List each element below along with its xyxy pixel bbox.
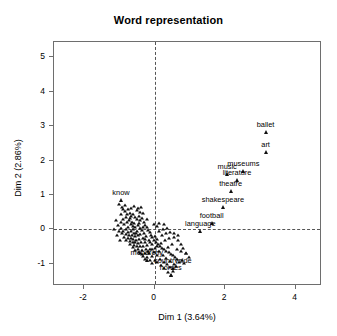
scatter-point bbox=[159, 242, 163, 245]
scatter-point bbox=[175, 247, 179, 250]
scatter-point bbox=[176, 238, 180, 241]
scatter-point-labeled bbox=[229, 189, 233, 193]
scatter-point-labeled bbox=[198, 229, 202, 233]
point-label: art bbox=[261, 141, 270, 148]
y-tick-label: 4 bbox=[29, 86, 45, 96]
x-tick-label: 4 bbox=[285, 292, 305, 302]
x-tick-label: -2 bbox=[73, 292, 93, 302]
scatter-point-labeled bbox=[221, 205, 225, 209]
point-label: shakespeare bbox=[202, 195, 244, 202]
scatter-point bbox=[162, 223, 166, 226]
horizontal-reference-line bbox=[54, 229, 320, 230]
scatter-point bbox=[123, 204, 127, 207]
scatter-point bbox=[143, 237, 147, 240]
y-tick-label: 2 bbox=[29, 155, 45, 165]
scatter-point bbox=[165, 226, 169, 229]
y-tick-label: -1 bbox=[29, 258, 45, 268]
x-tick-mark bbox=[224, 285, 225, 289]
scatter-point-labeled bbox=[145, 258, 149, 262]
scatter-point bbox=[134, 232, 138, 235]
y-tick-label: 5 bbox=[29, 51, 45, 61]
x-tick-label: 2 bbox=[214, 292, 234, 302]
y-tick-mark bbox=[49, 194, 53, 195]
scatter-point bbox=[128, 217, 132, 220]
scatter-point bbox=[155, 237, 159, 240]
scatter-point-labeled bbox=[119, 198, 123, 202]
y-tick-mark bbox=[49, 56, 53, 57]
y-axis-title: Dim 2 (2.86%) bbox=[13, 108, 23, 228]
y-tick-label: 3 bbox=[29, 120, 45, 130]
scatter-point bbox=[179, 249, 183, 252]
plot-area: balletartmuseumsmusicliteraturetheatresh… bbox=[53, 41, 321, 285]
y-tick-mark bbox=[49, 228, 53, 229]
point-label: theatre bbox=[219, 179, 242, 186]
scatter-point bbox=[176, 234, 180, 237]
y-tick-mark bbox=[49, 125, 53, 126]
scatter-point bbox=[140, 216, 144, 219]
scatter-point bbox=[170, 243, 174, 246]
point-label: ballet bbox=[257, 121, 275, 128]
scatter-point bbox=[125, 213, 129, 216]
scatter-point bbox=[112, 228, 116, 231]
scatter-point bbox=[119, 212, 123, 215]
scatter-point bbox=[152, 222, 156, 225]
scatter-point bbox=[124, 239, 128, 242]
scatter-point bbox=[131, 224, 135, 227]
y-tick-label: 1 bbox=[29, 189, 45, 199]
x-tick-mark bbox=[295, 285, 296, 289]
point-label: know bbox=[112, 189, 129, 196]
scatter-point bbox=[141, 225, 145, 228]
y-tick-mark bbox=[49, 263, 53, 264]
point-label: horses bbox=[160, 263, 182, 270]
scatter-point bbox=[145, 217, 149, 220]
y-tick-mark bbox=[49, 160, 53, 161]
x-tick-label: 0 bbox=[144, 292, 164, 302]
scatter-point-labeled bbox=[264, 150, 268, 154]
page-title: Word representation bbox=[0, 14, 337, 26]
x-tick-mark bbox=[154, 285, 155, 289]
y-tick-mark bbox=[49, 91, 53, 92]
x-axis-title: Dim 1 (3.64%) bbox=[53, 312, 321, 322]
scatter-point bbox=[118, 238, 122, 241]
scatter-point bbox=[115, 234, 119, 237]
x-tick-mark bbox=[83, 285, 84, 289]
chart-root: Word representation balletartmuseumsmusi… bbox=[0, 0, 337, 336]
scatter-point-labeled bbox=[264, 130, 268, 134]
y-tick-label: 0 bbox=[29, 223, 45, 233]
scatter-point bbox=[139, 205, 143, 208]
scatter-point bbox=[148, 240, 152, 243]
scatter-point bbox=[166, 246, 170, 249]
scatter-point bbox=[141, 212, 145, 215]
point-label: language bbox=[185, 220, 215, 227]
scatter-point-labeled bbox=[169, 273, 173, 277]
scatter-point bbox=[179, 242, 183, 245]
scatter-point bbox=[114, 218, 118, 221]
point-label: literature bbox=[223, 169, 252, 176]
